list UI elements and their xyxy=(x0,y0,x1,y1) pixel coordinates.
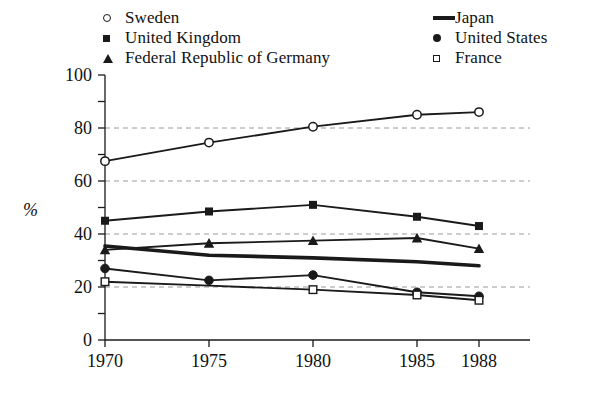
y-tick-label: 40 xyxy=(74,224,92,244)
plot-area: % 020406080100 19701975198019851988 xyxy=(0,0,597,418)
y-tick-label: 20 xyxy=(74,277,92,297)
data-point-marker xyxy=(475,108,483,116)
series-united-kingdom xyxy=(101,201,483,230)
data-point-marker xyxy=(309,122,317,130)
data-point-marker xyxy=(101,157,109,165)
series-japan xyxy=(105,246,479,266)
x-tick-label: 1988 xyxy=(461,351,497,371)
x-tick-label: 1970 xyxy=(87,351,123,371)
data-point-marker xyxy=(101,217,109,225)
y-tick-labels: 020406080100 xyxy=(65,65,92,350)
data-point-marker xyxy=(413,111,421,119)
data-point-marker xyxy=(309,271,318,280)
data-point-marker xyxy=(309,286,317,294)
data-point-marker xyxy=(101,278,109,286)
x-tick-label: 1985 xyxy=(399,351,435,371)
series-france xyxy=(101,278,483,304)
y-tick-label: 100 xyxy=(65,65,92,85)
data-point-marker xyxy=(205,138,213,146)
y-tick-label: 80 xyxy=(74,118,92,138)
x-tick-label: 1980 xyxy=(295,351,331,371)
y-tick-label: 0 xyxy=(83,330,92,350)
data-point-marker xyxy=(413,213,421,221)
y-axis-ticks xyxy=(98,75,105,340)
data-point-marker xyxy=(413,291,421,299)
y-tick-label: 60 xyxy=(74,171,92,191)
x-tick-labels: 19701975198019851988 xyxy=(87,351,497,371)
data-series-group xyxy=(100,108,484,304)
data-point-marker xyxy=(205,207,213,215)
data-point-marker xyxy=(309,201,317,209)
data-point-marker xyxy=(475,222,483,230)
axis-lines xyxy=(105,75,530,340)
chart-figure: Sweden United Kingdom Federal Republic o… xyxy=(0,0,597,418)
data-point-marker xyxy=(475,296,483,304)
x-axis-ticks xyxy=(105,340,479,347)
x-tick-label: 1975 xyxy=(191,351,227,371)
data-point-marker xyxy=(205,276,214,285)
gridlines xyxy=(105,128,530,287)
series-sweden xyxy=(101,108,483,165)
data-point-marker xyxy=(101,264,110,273)
chart-svg: 020406080100 19701975198019851988 xyxy=(0,0,597,418)
